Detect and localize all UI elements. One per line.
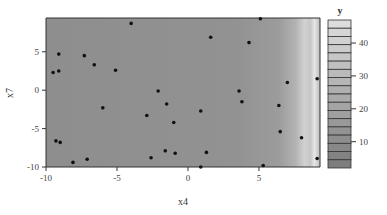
x-tick-label: 0 [186,173,191,183]
y-tick-label: 0 [35,85,40,95]
data-point [172,121,176,125]
x-tick-label: -10 [40,173,52,183]
data-point [315,77,319,81]
y-axis-title: x7 [4,88,15,98]
data-point [57,52,61,56]
data-point [58,141,62,145]
data-point [129,22,133,26]
data-point [315,157,319,161]
data-point [259,17,263,21]
data-point [165,102,169,106]
x-tick-label: 5 [257,173,262,183]
colorbar-ticks: 10203040 [351,38,369,147]
heatmap-surface [46,18,320,167]
data-point [209,35,213,39]
data-point [85,158,89,162]
data-point [145,114,149,118]
y-tick-label: -10 [27,162,39,172]
y-tick-label: 5 [35,47,40,57]
data-point [156,89,160,93]
x-tick-label: -5 [113,173,121,183]
data-point [237,89,241,93]
data-point [205,151,209,155]
data-point [57,69,61,73]
colorbar-tick-label: 40 [359,38,369,48]
y-axis: -10-505 [27,47,46,172]
data-point [101,106,105,110]
colorbar: y 10203040 [328,5,369,168]
colorbar-title: y [338,5,343,16]
colorbar-bands [328,20,351,168]
colorbar-tick-label: 20 [359,104,369,114]
data-point [83,54,87,58]
colorbar-tick-label: 10 [359,137,369,147]
data-point [163,149,167,153]
data-point [71,161,75,165]
x-axis: -10-505 [40,167,262,183]
data-point [199,109,203,113]
data-point [300,136,304,140]
data-point [92,63,96,67]
data-point [278,130,282,134]
data-point [114,68,118,72]
plot-panel [46,17,320,169]
data-point [51,71,55,75]
data-point [261,164,265,168]
data-point [247,41,251,45]
x-axis-title: x4 [178,196,188,207]
data-point [277,104,281,108]
data-point [240,100,244,104]
y-tick-label: -5 [32,124,40,134]
data-point [199,165,203,169]
data-point [54,139,58,143]
data-point [173,151,177,155]
chart: -10-505 x4 -10-505 x7 y 10203040 [0,0,387,215]
data-point [286,81,290,85]
data-point [149,156,153,160]
colorbar-tick-label: 30 [359,71,369,81]
